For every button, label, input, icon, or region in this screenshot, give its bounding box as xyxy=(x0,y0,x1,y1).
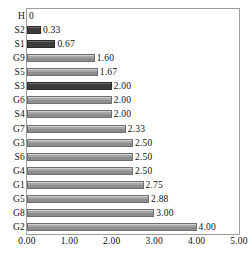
bar-row: G52.88 xyxy=(27,192,239,206)
bar-G3 xyxy=(27,139,133,147)
bar-S5 xyxy=(27,68,98,76)
x-axis: 0.001.002.003.004.005.00 xyxy=(26,236,240,252)
bar-G5 xyxy=(27,195,149,203)
category-label: H xyxy=(0,9,25,23)
bar-value-label: 2.00 xyxy=(112,93,131,107)
bar-row: S51.67 xyxy=(27,65,239,79)
bar-row: S32.00 xyxy=(27,79,239,93)
bar-value-label: 2.75 xyxy=(144,178,163,192)
bar-G2 xyxy=(27,223,197,231)
bar-value-label: 3.00 xyxy=(154,206,173,220)
x-tick-label: 1.00 xyxy=(61,236,78,246)
bar-chart: H0S20.33S10.67G91.60S51.67S32.00G62.00S4… xyxy=(0,0,251,262)
bar-G1 xyxy=(27,181,144,189)
bar-rows-container: H0S20.33S10.67G91.60S51.67S32.00G62.00S4… xyxy=(27,9,239,234)
category-label: G1 xyxy=(0,178,25,192)
bar-value-label: 2.50 xyxy=(133,136,152,150)
bar-S1 xyxy=(27,40,55,48)
x-tick-label: 0.00 xyxy=(18,236,35,246)
bar-row: G83.00 xyxy=(27,206,239,220)
bar-row: S42.00 xyxy=(27,107,239,121)
bar-value-label: 2.88 xyxy=(149,192,168,206)
bar-S2 xyxy=(27,26,41,34)
bar-G4 xyxy=(27,167,133,175)
category-label: G5 xyxy=(0,192,25,206)
x-tick-label: 3.00 xyxy=(145,236,162,246)
bar-value-label: 2.50 xyxy=(133,150,152,164)
x-tick-label: 2.00 xyxy=(103,236,120,246)
bar-value-label: 2.00 xyxy=(112,79,131,93)
bar-value-label: 1.60 xyxy=(95,51,114,65)
bar-value-label: 0 xyxy=(27,9,34,23)
bar-value-label: 4.00 xyxy=(197,220,216,234)
bar-row: S10.67 xyxy=(27,37,239,51)
bar-row: G72.33 xyxy=(27,122,239,136)
bar-row: G32.50 xyxy=(27,136,239,150)
bar-row: S62.50 xyxy=(27,150,239,164)
bar-row: S20.33 xyxy=(27,23,239,37)
bar-row: H0 xyxy=(27,9,239,23)
category-label: S1 xyxy=(0,37,25,51)
category-label: S6 xyxy=(0,150,25,164)
bar-row: G24.00 xyxy=(27,220,239,234)
category-label: G6 xyxy=(0,93,25,107)
category-label: G8 xyxy=(0,206,25,220)
bar-S4 xyxy=(27,110,112,118)
bar-G8 xyxy=(27,209,154,217)
x-tick-label: 5.00 xyxy=(230,236,247,246)
category-label: G7 xyxy=(0,122,25,136)
bar-value-label: 0.67 xyxy=(55,37,74,51)
bar-value-label: 2.33 xyxy=(126,122,145,136)
bar-row: G42.50 xyxy=(27,164,239,178)
category-label: G2 xyxy=(0,220,25,234)
bar-value-label: 0.33 xyxy=(41,23,60,37)
bar-S6 xyxy=(27,153,133,161)
bar-row: G62.00 xyxy=(27,93,239,107)
bar-value-label: 2.00 xyxy=(112,107,131,121)
category-label: G3 xyxy=(0,136,25,150)
bar-value-label: 2.50 xyxy=(133,164,152,178)
category-label: S2 xyxy=(0,23,25,37)
bar-row: G12.75 xyxy=(27,178,239,192)
category-label: G9 xyxy=(0,51,25,65)
category-label: G4 xyxy=(0,164,25,178)
bar-G7 xyxy=(27,125,126,133)
bar-G6 xyxy=(27,96,112,104)
category-label: S5 xyxy=(0,65,25,79)
category-label: S4 xyxy=(0,107,25,121)
x-tick-label: 4.00 xyxy=(188,236,205,246)
bar-S3 xyxy=(27,82,112,90)
bar-value-label: 1.67 xyxy=(98,65,117,79)
category-label: S3 xyxy=(0,79,25,93)
bar-row: G91.60 xyxy=(27,51,239,65)
bar-G9 xyxy=(27,54,95,62)
